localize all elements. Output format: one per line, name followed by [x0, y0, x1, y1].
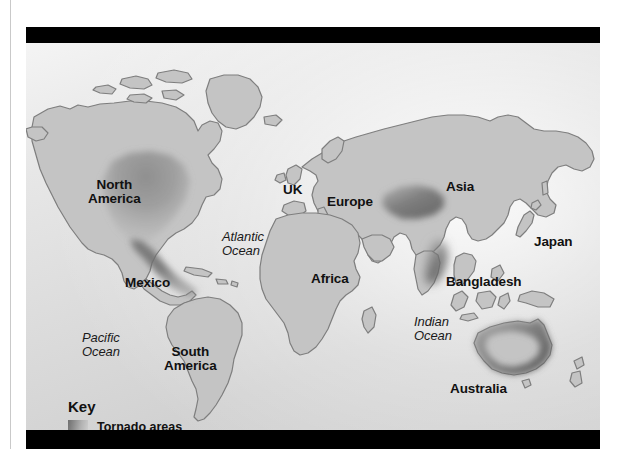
map-label-pacific-ocean-line2: Ocean: [82, 345, 120, 359]
page-edge-rule: [10, 0, 11, 449]
land-arctic-island-2: [156, 70, 192, 83]
land-sulawesi: [498, 293, 510, 309]
map-label-indian-ocean-line2: Ocean: [414, 329, 452, 343]
land-tasmania: [522, 379, 531, 388]
land-arctic-island-5: [162, 90, 184, 100]
land-japan: [516, 211, 534, 237]
land-arctic-island-1: [120, 76, 152, 89]
map-label-europe: Europe: [327, 195, 373, 209]
map-label-south-america: South America: [164, 345, 217, 373]
map-key-title: Key: [68, 399, 182, 414]
land-lesser-antilles: [231, 281, 238, 287]
land-sakhalin: [542, 181, 548, 195]
land-new-zealand-north: [574, 357, 584, 369]
land-new-guinea: [518, 291, 554, 307]
land-arctic-island-3: [93, 85, 116, 94]
land-alaska-peninsula: [26, 127, 48, 141]
map-label-asia: Asia: [446, 180, 474, 194]
map-label-atlantic-ocean: Atlantic Ocean: [222, 230, 264, 257]
map-label-mexico: Mexico: [125, 276, 170, 290]
map-plate: North America Mexico South America UK Eu…: [26, 43, 600, 430]
land-java: [460, 313, 478, 321]
map-label-north-america-line1: North: [88, 178, 141, 192]
map-label-japan: Japan: [534, 235, 573, 249]
map-label-africa: Africa: [311, 272, 349, 286]
map-label-north-america-line2: America: [88, 192, 141, 206]
map-label-indian-ocean: Indian Ocean: [414, 315, 452, 342]
map-label-bangladesh: Bangladesh: [446, 275, 522, 289]
map-label-pacific-ocean: Pacific Ocean: [82, 331, 120, 358]
land-madagascar: [362, 307, 376, 333]
map-label-atlantic-ocean-line1: Atlantic: [222, 230, 264, 244]
map-label-north-america: North America: [88, 178, 141, 206]
map-label-australia: Australia: [450, 382, 507, 396]
land-greenland: [206, 75, 262, 129]
land-new-zealand-south: [570, 371, 582, 387]
map-label-south-america-line2: America: [164, 359, 217, 373]
land-borneo: [476, 291, 496, 309]
land-arabia: [362, 235, 394, 261]
map-label-atlantic-ocean-line2: Ocean: [222, 244, 264, 258]
land-sumatra: [451, 291, 468, 311]
map-label-pacific-ocean-line1: Pacific: [82, 331, 120, 345]
world-map-graphic: [26, 43, 600, 430]
land-iceland: [264, 115, 282, 126]
land-hispaniola: [216, 279, 228, 284]
map-label-south-america-line1: South: [164, 345, 217, 359]
world-map-figure: North America Mexico South America UK Eu…: [0, 0, 618, 449]
land-cuba: [184, 267, 212, 277]
map-label-indian-ocean-line1: Indian: [414, 315, 452, 329]
map-label-uk: UK: [283, 183, 302, 197]
bottom-black-bar: [26, 430, 600, 449]
top-black-bar: [26, 27, 600, 43]
